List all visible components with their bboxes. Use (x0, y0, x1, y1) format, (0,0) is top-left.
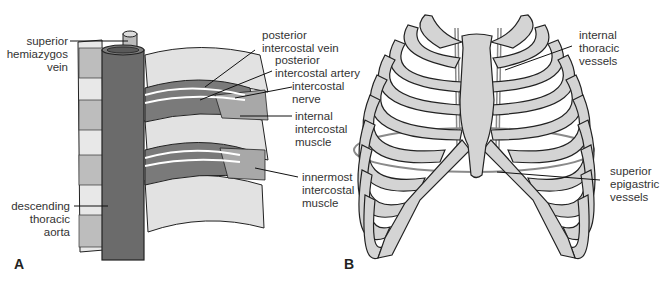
label-line: descending (4, 200, 70, 213)
label-line: muscle (302, 197, 354, 210)
panel-a-drawing (70, 31, 298, 260)
label-line: vessels (579, 55, 619, 68)
label-innermost-intercostal-muscle: innermost intercostal muscle (302, 171, 354, 210)
label-line: thoracic (4, 213, 70, 226)
label-line: vein (4, 61, 68, 74)
panel-b-letter: B (344, 256, 354, 272)
label-line: epigastric (610, 178, 659, 191)
label-line: superior (4, 35, 68, 48)
panel-b-drawing (354, 15, 600, 259)
label-line: intercostal (292, 80, 344, 93)
label-posterior-intercostal-artery: posterior intercostal artery (275, 54, 360, 80)
label-line: thoracic (579, 42, 619, 55)
label-line: nerve (292, 93, 344, 106)
label-line: posterior (262, 29, 339, 42)
label-line: internal (579, 29, 619, 42)
label-line: intercostal (295, 123, 347, 136)
label-internal-thoracic-vessels: internal thoracic vessels (579, 29, 619, 68)
label-intercostal-nerve: intercostal nerve (292, 80, 344, 106)
label-internal-intercostal-muscle: internal intercostal muscle (295, 110, 347, 149)
label-line: innermost (302, 171, 354, 184)
label-line: muscle (295, 136, 347, 149)
label-line: vessels (610, 191, 659, 204)
label-line: intercostal artery (275, 67, 360, 80)
label-superior-epigastric-vessels: superior epigastric vessels (610, 165, 659, 204)
label-descending-thoracic-aorta: descending thoracic aorta (4, 200, 70, 239)
label-line: superior (610, 165, 659, 178)
label-superior-hemiazygos-vein: superior hemiazygos vein (4, 35, 68, 74)
label-posterior-intercostal-vein: posterior intercostal vein (262, 29, 339, 55)
label-line: posterior (275, 54, 360, 67)
label-line: aorta (4, 226, 70, 239)
panel-a-letter: A (14, 256, 24, 272)
label-line: intercostal (302, 184, 354, 197)
label-line: hemiazygos (4, 48, 68, 61)
label-line: internal (295, 110, 347, 123)
